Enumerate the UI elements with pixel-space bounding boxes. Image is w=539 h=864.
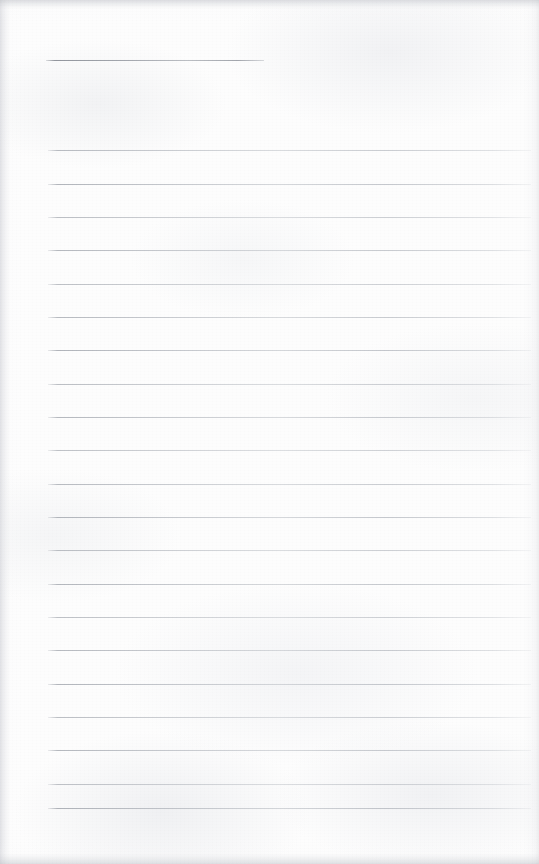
scanned-page [0, 0, 539, 864]
ruled-line [48, 550, 531, 551]
ruled-line [48, 284, 531, 285]
ruled-line [48, 350, 531, 351]
ruled-line [48, 650, 531, 651]
ruled-line [48, 784, 531, 785]
ruled-line [48, 417, 531, 418]
ruled-line-partial [46, 60, 264, 61]
ruled-line [48, 750, 531, 751]
ruled-line [48, 517, 531, 518]
ruled-line [48, 184, 531, 185]
ruled-line [48, 484, 531, 485]
ruled-line [48, 584, 531, 585]
ruled-line [48, 450, 531, 451]
ruled-lines-container [0, 0, 539, 864]
ruled-line [48, 808, 531, 809]
ruled-line [48, 150, 531, 151]
ruled-line [48, 717, 531, 718]
ruled-line [48, 684, 531, 685]
ruled-line [48, 317, 531, 318]
ruled-line [48, 217, 531, 218]
ruled-line [48, 617, 531, 618]
ruled-line [48, 384, 531, 385]
ruled-line [48, 250, 531, 251]
